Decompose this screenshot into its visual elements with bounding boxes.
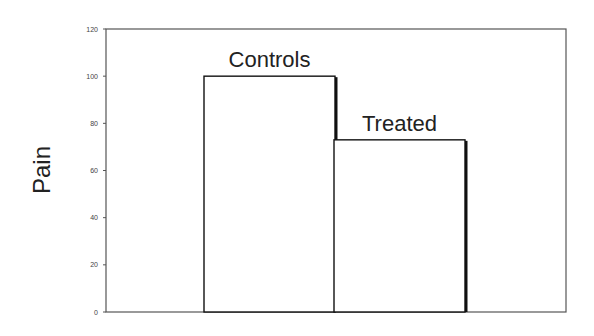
y-tick-label: 20 (90, 261, 98, 268)
bar-label: Treated (362, 111, 437, 136)
y-tick-label: 80 (90, 120, 98, 127)
y-tick-label: 0 (94, 309, 98, 316)
bar-chart: 020406080100120 ControlsTreated Pain (0, 0, 594, 336)
bar-controls: Controls (204, 47, 336, 312)
y-tick-label: 60 (90, 167, 98, 174)
y-tick-label: 40 (90, 214, 98, 221)
y-tick-label: 100 (86, 73, 98, 80)
bars: ControlsTreated (204, 47, 466, 312)
bar-treated: Treated (334, 111, 466, 312)
bar-label: Controls (229, 47, 311, 72)
y-axis: 020406080100120 (86, 26, 106, 316)
y-tick-label: 120 (86, 26, 98, 33)
y-axis-label: Pain (28, 146, 55, 194)
